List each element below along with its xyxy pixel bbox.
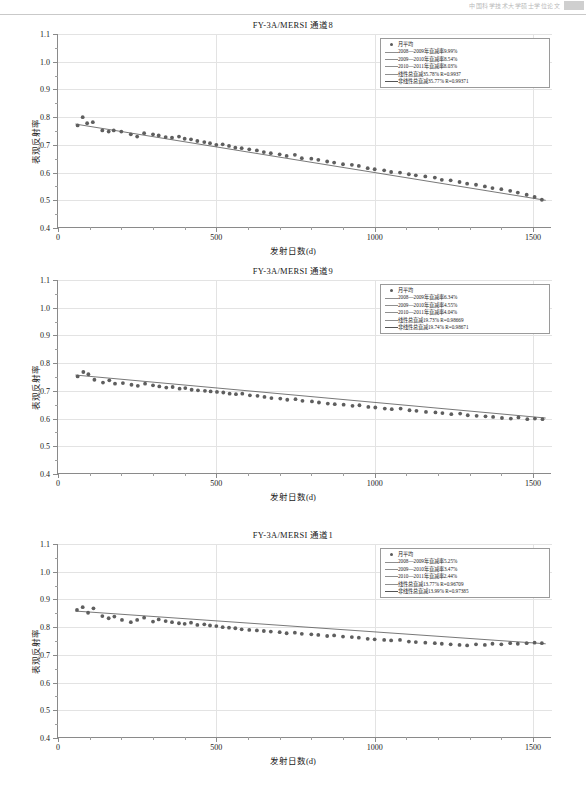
data-point — [449, 178, 453, 182]
y-axis-tick-label: 0.8 — [40, 113, 50, 122]
data-point — [414, 173, 418, 177]
data-point — [195, 139, 199, 143]
data-point — [350, 635, 354, 639]
chart-legend: 月平均2008—2009年衰减率9.99%2009—2010年衰减率8.54%2… — [380, 38, 550, 88]
legend-marker-line-solid — [384, 588, 398, 595]
y-axis-tick-label: 1.1 — [40, 30, 50, 39]
data-point — [227, 626, 231, 630]
data-point — [382, 168, 386, 172]
y-axis-tick-label: 0.8 — [40, 623, 50, 632]
data-point — [525, 193, 529, 197]
data-point — [91, 120, 95, 124]
data-point — [316, 633, 320, 637]
y-axis-tick-label: 1.1 — [40, 540, 50, 549]
data-point — [81, 370, 85, 374]
legend-label: 非线性总衰减13.99% R=0.97385 — [398, 588, 469, 595]
y-axis-tick-label: 1.0 — [40, 567, 50, 576]
data-point — [525, 417, 529, 421]
legend-label: 线性总衰减13.77% R=0.96709 — [398, 581, 464, 588]
x-axis-tick-label: 500 — [210, 233, 222, 242]
line-icon — [385, 327, 398, 328]
x-axis-tick-label: 1000 — [367, 479, 383, 488]
data-point — [434, 411, 438, 415]
data-point — [341, 162, 345, 166]
data-point — [227, 144, 231, 148]
data-point — [202, 622, 206, 626]
data-point — [332, 161, 336, 165]
data-point — [214, 624, 218, 628]
legend-label: 2008—2009年衰减率9.99% — [398, 48, 457, 55]
x-axis-tick-label: 500 — [210, 479, 222, 488]
data-point — [101, 381, 105, 385]
dot-icon — [390, 43, 393, 46]
plot-area: 0.40.50.60.70.80.91.01.1050010001500月平均2… — [57, 544, 551, 738]
data-point — [75, 608, 79, 612]
line-icon — [385, 74, 398, 75]
data-point — [234, 392, 238, 396]
chart-title: FY-3A/MERSI 通道1 — [0, 528, 586, 540]
data-point — [183, 386, 187, 390]
data-point — [164, 135, 168, 139]
data-point — [189, 621, 193, 625]
data-point — [491, 415, 495, 419]
data-point — [278, 397, 282, 401]
y-axis-tick-label: 1.0 — [40, 57, 50, 66]
y-axis-tick-label: 0.7 — [40, 386, 50, 395]
data-point — [449, 412, 453, 416]
y-axis-tick-label: 0.9 — [40, 595, 50, 604]
data-point — [262, 150, 266, 154]
x-axis-tick-label: 0 — [56, 743, 60, 752]
data-point — [262, 629, 266, 633]
x-axis-tick-label: 0 — [56, 479, 60, 488]
data-point — [408, 408, 412, 412]
data-point — [189, 137, 193, 141]
y-axis-tick-label: 0.5 — [40, 706, 50, 715]
legend-marker-line — [384, 56, 398, 63]
document-page: 中国科学技术大学硕士学位论文 FY-3A/MERSI 通道8 表观反射率 0.4… — [0, 0, 586, 801]
fit-line — [75, 124, 545, 200]
data-point — [121, 381, 125, 385]
data-point — [500, 416, 504, 420]
legend-marker-line — [384, 63, 398, 70]
data-point — [465, 644, 469, 648]
data-point — [76, 124, 80, 128]
chart-legend: 月平均2008—2009年衰减率6.34%2009—2010年衰减率4.55%2… — [380, 284, 550, 334]
data-point — [407, 640, 411, 644]
data-point — [255, 629, 259, 633]
data-point — [484, 414, 488, 418]
data-point — [221, 391, 225, 395]
data-point — [240, 392, 244, 396]
data-point — [247, 147, 251, 151]
legend-marker-line — [384, 317, 398, 324]
data-point — [107, 378, 111, 382]
data-point — [151, 620, 155, 624]
y-axis-tick-label: 0.4 — [40, 224, 50, 233]
data-point — [458, 643, 462, 647]
data-point — [76, 375, 80, 379]
data-point — [170, 620, 174, 624]
legend-item: 2008—2009年衰减率9.99% — [384, 48, 546, 55]
data-point — [209, 390, 213, 394]
line-icon — [385, 52, 398, 53]
data-point — [93, 378, 97, 382]
data-point — [373, 406, 377, 410]
legend-item: 非线性总衰减35.77% R=0.99371 — [384, 78, 546, 85]
legend-marker-line — [384, 71, 398, 78]
data-point — [248, 393, 252, 397]
legend-item: 线性总衰减13.77% R=0.96709 — [384, 581, 546, 588]
data-point — [309, 632, 313, 636]
data-point — [129, 132, 133, 136]
data-point — [269, 151, 273, 155]
legend-marker-line-solid — [384, 78, 398, 85]
chart-title: FY-3A/MERSI 通道9 — [0, 264, 586, 276]
data-point — [309, 157, 313, 161]
legend-label: 线性总衰减35.78% R=0.9937 — [398, 71, 461, 78]
dot-icon — [390, 289, 393, 292]
data-point — [151, 132, 155, 136]
data-point — [247, 628, 251, 632]
data-point — [390, 407, 394, 411]
plot-area: 0.40.50.60.70.80.91.01.1050010001500月平均2… — [57, 280, 551, 474]
data-point — [449, 642, 453, 646]
data-point — [233, 146, 237, 150]
y-axis-tick-label: 0.7 — [40, 140, 50, 149]
